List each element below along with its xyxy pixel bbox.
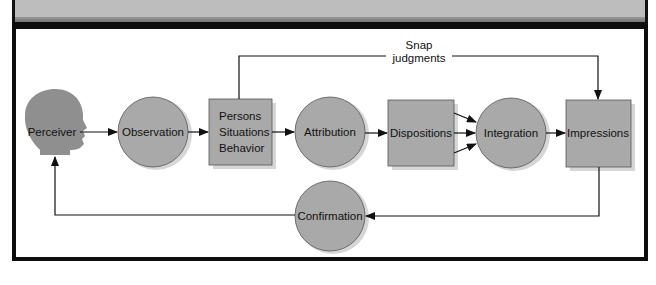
- impressions-node: Impressions: [566, 100, 635, 171]
- observation-label: Observation: [122, 126, 184, 138]
- attribution-node: Attribution: [295, 97, 369, 170]
- psb-label-persons: Persons: [219, 110, 261, 122]
- head-silhouette-icon: [25, 89, 87, 155]
- persons-situations-behavior-node: Persons Situations Behavior: [209, 99, 276, 169]
- psb-label-situations: Situations: [219, 126, 270, 138]
- edge-snap-left: [239, 56, 386, 99]
- perceiver-label: Perceiver: [28, 126, 77, 138]
- impressions-label: Impressions: [567, 127, 629, 139]
- dispositions-node: Dispositions: [388, 100, 458, 170]
- flow-diagram: Perceiver Observation Persons Situations…: [0, 0, 656, 285]
- snap-label-line2: judgments: [391, 52, 445, 64]
- observation-node: Observation: [118, 97, 192, 170]
- confirmation-label: Confirmation: [297, 210, 362, 222]
- dispositions-label: Dispositions: [390, 127, 452, 139]
- perceiver-node: Perceiver: [25, 89, 87, 155]
- integration-label: Integration: [484, 127, 538, 139]
- edge-impressions-confirmation: [366, 167, 599, 216]
- integration-node: Integration: [476, 98, 550, 171]
- snap-label-line1: Snap: [406, 39, 433, 51]
- confirmation-node: Confirmation: [295, 181, 369, 254]
- psb-label-behavior: Behavior: [219, 142, 265, 154]
- edge-snap-right: [452, 56, 598, 99]
- attribution-label: Attribution: [304, 126, 356, 138]
